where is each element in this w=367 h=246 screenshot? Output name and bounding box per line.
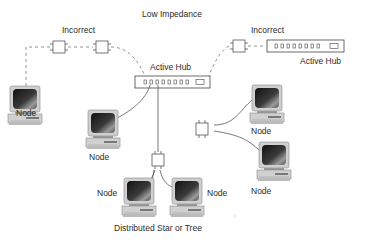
- balun-connector-icon: [93, 41, 111, 53]
- title-low-impedance: Low Impedance: [142, 9, 202, 19]
- label-node-bottom-right: Node: [207, 188, 227, 198]
- label-node-right-lower: Node: [251, 186, 271, 196]
- cables: [113, 85, 259, 189]
- label-node-top-left: Node: [16, 108, 36, 118]
- balun-connector-icon: [50, 41, 68, 53]
- incorrect-dashed-link-left: [26, 47, 146, 86]
- computer-node-icon: [257, 142, 291, 181]
- computer-node-icon: [86, 110, 120, 149]
- computer-node-icon: [8, 86, 42, 125]
- label-incorrect-left: Incorrect: [62, 25, 95, 35]
- label-node-mid-left: Node: [89, 152, 109, 162]
- label-node-bottom-left: Node: [97, 188, 117, 198]
- active-hub-center-icon: [135, 76, 210, 88]
- caption-distributed-star: Distributed Star or Tree: [114, 223, 202, 233]
- label-node-right-upper: Node: [251, 126, 271, 136]
- label-incorrect-right: Incorrect: [251, 25, 284, 35]
- balun-connector-icon: [230, 40, 248, 52]
- balun-connector-icon: [196, 120, 208, 138]
- label-active-hub-right: Active Hub: [300, 56, 341, 66]
- computer-node-icon: [250, 85, 284, 124]
- active-hub-right-icon: [267, 40, 344, 52]
- computer-node-icon: [170, 178, 204, 217]
- balun-connector-icon: [152, 151, 164, 169]
- label-active-hub-center: Active Hub: [150, 62, 191, 72]
- computer-node-icon: [122, 178, 156, 217]
- network-diagram: [0, 0, 367, 246]
